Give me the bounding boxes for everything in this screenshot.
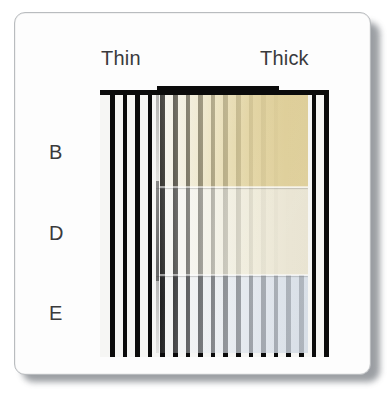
column-header-thick: Thick [260, 47, 309, 70]
figure-root: Thin Thick B D E [0, 0, 388, 393]
sample-band-e [156, 275, 308, 353]
row-header-b: B [49, 141, 62, 164]
sample-band-d [156, 187, 308, 275]
band-seam-b-d [156, 186, 308, 188]
row-header-d: D [49, 222, 63, 245]
band-seam-d-e [156, 274, 308, 276]
slab-left-edge-shadow [156, 181, 159, 281]
mesh-top-tab-strip [157, 86, 279, 95]
sample-card: Thin Thick B D E [14, 12, 371, 375]
row-header-e: E [49, 302, 62, 325]
column-header-thin: Thin [101, 47, 141, 70]
sample-band-b [156, 95, 308, 187]
translucent-sample-slab [156, 95, 308, 353]
mesh-and-specimen-assembly [100, 92, 329, 357]
